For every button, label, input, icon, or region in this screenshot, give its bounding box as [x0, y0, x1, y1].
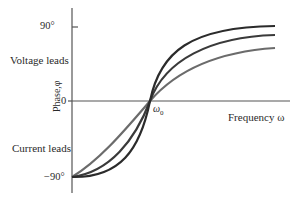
current-leads-label: Current leads	[12, 142, 71, 154]
y-axis-label: Phase,φ	[51, 80, 62, 112]
tick-label-neg90: −90°	[44, 171, 65, 183]
curve-medium	[72, 35, 275, 177]
voltage-leads-label: Voltage leads	[10, 54, 69, 66]
omega-symbol: ω	[153, 103, 160, 114]
omega-subscript: 0	[160, 109, 164, 117]
omega0-marker: ω0	[153, 104, 164, 118]
x-axis-label: Frequency ω	[228, 111, 284, 123]
tick-label-90: 90°	[40, 20, 55, 32]
